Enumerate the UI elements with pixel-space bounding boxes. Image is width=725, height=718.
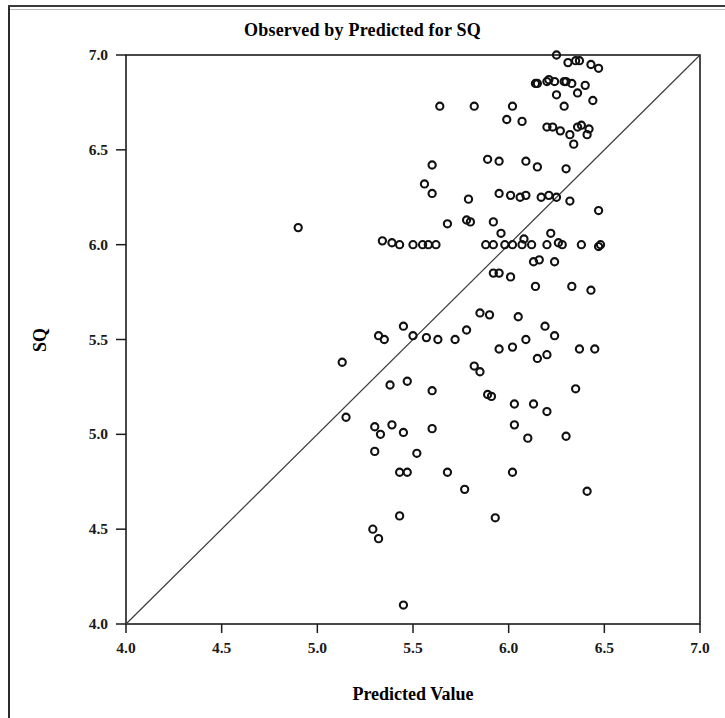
data-point: [534, 163, 541, 170]
x-tick-label: 5.0: [308, 639, 328, 656]
data-point: [471, 103, 478, 110]
x-axis-title: Predicted Value: [352, 684, 473, 704]
data-point: [543, 241, 550, 248]
data-point: [511, 400, 518, 407]
y-tick-label: 7.0: [89, 46, 109, 63]
data-point: [381, 336, 388, 343]
data-point: [444, 469, 451, 476]
data-point: [522, 336, 529, 343]
data-point: [530, 400, 537, 407]
data-point: [371, 423, 378, 430]
data-point: [409, 332, 416, 339]
data-point: [551, 258, 558, 265]
x-tick-label: 6.5: [595, 639, 615, 656]
data-point: [375, 535, 382, 542]
x-tick-label: 6.0: [499, 639, 519, 656]
data-point: [429, 161, 436, 168]
data-point: [484, 156, 491, 163]
data-point: [503, 116, 510, 123]
data-point: [444, 220, 451, 227]
data-point: [543, 351, 550, 358]
data-point: [591, 345, 598, 352]
data-point: [524, 435, 531, 442]
data-point: [490, 241, 497, 248]
data-point: [557, 127, 564, 134]
data-point: [578, 241, 585, 248]
data-point: [451, 336, 458, 343]
data-point: [423, 334, 430, 341]
data-point: [413, 450, 420, 457]
data-point: [339, 359, 346, 366]
data-point: [342, 414, 349, 421]
data-point: [595, 65, 602, 72]
data-point: [400, 601, 407, 608]
data-point: [587, 287, 594, 294]
data-point: [436, 103, 443, 110]
data-point: [295, 224, 302, 231]
data-point: [377, 431, 384, 438]
data-point: [541, 323, 548, 330]
data-point: [584, 488, 591, 495]
data-point: [379, 237, 386, 244]
data-point: [421, 180, 428, 187]
x-tick-label: 5.5: [403, 639, 423, 656]
scatter-plot: 4.04.55.05.56.06.57.0 4.04.55.05.56.06.5…: [0, 0, 725, 718]
data-point: [566, 131, 573, 138]
data-point: [369, 526, 376, 533]
data-point: [547, 230, 554, 237]
data-point: [429, 190, 436, 197]
data-point: [496, 345, 503, 352]
data-point: [595, 207, 602, 214]
y-tick-label: 4.5: [89, 520, 109, 537]
data-point: [461, 486, 468, 493]
data-point: [509, 343, 516, 350]
data-point: [396, 469, 403, 476]
data-point: [543, 408, 550, 415]
data-point: [562, 433, 569, 440]
data-point: [496, 158, 503, 165]
data-point: [396, 512, 403, 519]
data-point: [432, 241, 439, 248]
data-point: [486, 311, 493, 318]
y-tick-label: 6.5: [89, 141, 109, 158]
data-point: [532, 283, 539, 290]
data-point: [490, 218, 497, 225]
data-point: [582, 82, 589, 89]
data-point: [561, 103, 568, 110]
data-point: [515, 313, 522, 320]
x-tick-label: 4.0: [116, 639, 136, 656]
data-point: [492, 514, 499, 521]
y-tick-label: 4.0: [89, 615, 109, 632]
data-point: [409, 241, 416, 248]
data-point: [404, 378, 411, 385]
data-point: [396, 241, 403, 248]
data-point: [568, 283, 575, 290]
data-point: [570, 141, 577, 148]
data-point: [587, 61, 594, 68]
data-point: [429, 425, 436, 432]
chart-page: Observed by Predicted for SQ 4.04.55.05.…: [0, 0, 725, 718]
data-point: [576, 345, 583, 352]
data-point: [518, 118, 525, 125]
data-point: [434, 336, 441, 343]
y-tick-label: 5.5: [89, 331, 109, 348]
data-point: [507, 192, 514, 199]
data-point: [388, 239, 395, 246]
data-point: [429, 387, 436, 394]
data-point: [564, 59, 571, 66]
data-point: [371, 448, 378, 455]
data-point: [386, 381, 393, 388]
data-point: [522, 158, 529, 165]
data-point: [528, 241, 535, 248]
x-tick-label: 7.0: [690, 639, 710, 656]
data-point: [562, 165, 569, 172]
data-point: [589, 97, 596, 104]
data-point: [465, 196, 472, 203]
data-point: [566, 197, 573, 204]
data-point: [572, 385, 579, 392]
y-axis-title: SQ: [30, 328, 50, 352]
data-point: [400, 429, 407, 436]
data-point: [388, 421, 395, 428]
data-point: [553, 91, 560, 98]
data-point: [476, 309, 483, 316]
